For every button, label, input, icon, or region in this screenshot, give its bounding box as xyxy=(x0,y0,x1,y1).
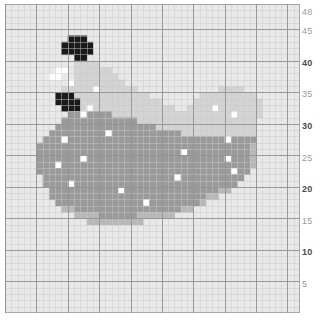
pattern-chart-root: 4845403530252015105 xyxy=(0,0,336,324)
y-axis-tick: 45 xyxy=(302,27,330,36)
y-axis-tick: 30 xyxy=(302,122,330,131)
y-axis-tick: 35 xyxy=(302,90,330,99)
y-axis-tick: 5 xyxy=(302,280,330,289)
y-axis-tick: 40 xyxy=(302,59,330,68)
y-axis-labels: 4845403530252015105 xyxy=(302,0,336,324)
grid-chart-area[interactable] xyxy=(5,4,300,313)
y-axis-tick: 20 xyxy=(302,185,330,194)
y-axis-tick: 48 xyxy=(302,8,330,17)
y-axis-tick: 25 xyxy=(302,154,330,163)
pattern-grid-canvas[interactable] xyxy=(5,4,300,313)
y-axis-tick: 15 xyxy=(302,217,330,226)
y-axis-tick: 10 xyxy=(302,248,330,257)
